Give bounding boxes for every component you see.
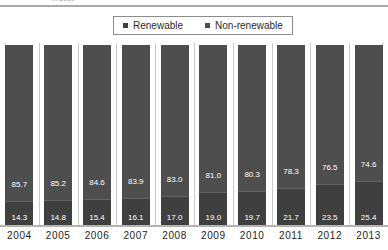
bar-segment-non-renewable[interactable]: 85.2 [44, 45, 72, 200]
bar-segment-renewable[interactable]: 23.5 [316, 184, 344, 227]
x-axis-label: 2004 [0, 229, 39, 247]
bar-value-label: 83.0 [167, 176, 183, 184]
x-axis-label: 2008 [155, 229, 194, 247]
stacked-bar[interactable]: 76.523.5 [316, 45, 344, 227]
x-axis-label: 2006 [78, 229, 117, 247]
bar-segment-non-renewable[interactable]: 80.3 [238, 45, 266, 191]
clipped-header-text: in 2013 [52, 0, 75, 1]
bar-slot: 85.214.8 [39, 45, 78, 227]
plot-area: 85.714.385.214.884.615.483.916.183.017.0… [0, 43, 388, 227]
bar-segment-non-renewable[interactable]: 81.0 [199, 45, 227, 192]
bar-value-label: 21.7 [283, 214, 299, 222]
x-axis-label: 2012 [310, 229, 349, 247]
bar-slot: 78.321.7 [272, 45, 311, 227]
x-axis-label: 2007 [116, 229, 155, 247]
bar-slot: 84.615.4 [78, 45, 117, 227]
legend-label-renewable: Renewable [133, 21, 183, 31]
header-divider-rule [0, 5, 388, 7]
bar-slot: 74.625.4 [349, 45, 388, 227]
bar-series-container: 85.714.385.214.884.615.483.916.183.017.0… [0, 45, 388, 227]
bar-value-label: 25.4 [361, 214, 377, 222]
bar-slot: 83.017.0 [155, 45, 194, 227]
bar-segment-renewable[interactable]: 14.8 [44, 200, 72, 227]
bar-value-label: 16.1 [128, 214, 144, 222]
chart-page: in 2013 Renewable Non-renewable 85.714.3… [0, 0, 388, 250]
bar-slot: 85.714.3 [0, 45, 39, 227]
x-axis-label: 2009 [194, 229, 233, 247]
bar-segment-renewable[interactable]: 21.7 [277, 188, 305, 227]
stacked-bar[interactable]: 85.214.8 [44, 45, 72, 227]
stacked-bar[interactable]: 84.615.4 [83, 45, 111, 227]
bar-value-label: 19.7 [244, 214, 260, 222]
stacked-bar[interactable]: 83.017.0 [161, 45, 189, 227]
bar-segment-renewable[interactable]: 19.7 [238, 191, 266, 227]
square-marker-icon [205, 23, 210, 28]
bar-slot: 83.916.1 [116, 45, 155, 227]
bar-value-label: 74.6 [361, 161, 377, 169]
bar-value-label: 23.5 [322, 214, 338, 222]
stacked-bar[interactable]: 83.916.1 [122, 45, 150, 227]
bar-value-label: 84.6 [89, 179, 105, 187]
x-axis-line [0, 225, 388, 227]
bar-segment-renewable[interactable]: 16.1 [122, 198, 150, 227]
bar-value-label: 83.9 [128, 178, 144, 186]
bar-value-label: 19.0 [206, 214, 222, 222]
x-axis-label: 2010 [233, 229, 272, 247]
legend-item-renewable[interactable]: Renewable [123, 21, 183, 31]
bar-segment-non-renewable[interactable]: 74.6 [355, 45, 383, 181]
bar-value-label: 15.4 [89, 214, 105, 222]
stacked-bar[interactable]: 78.321.7 [277, 45, 305, 227]
bar-segment-renewable[interactable]: 25.4 [355, 181, 383, 227]
x-axis-label: 2011 [272, 229, 311, 247]
bar-slot: 81.019.0 [194, 45, 233, 227]
bar-value-label: 14.3 [12, 214, 28, 222]
bar-value-label: 81.0 [206, 172, 222, 180]
bar-segment-renewable[interactable]: 14.3 [5, 201, 33, 227]
bar-value-label: 78.3 [283, 168, 299, 176]
legend-item-non-renewable[interactable]: Non-renewable [205, 21, 283, 31]
bar-value-label: 85.2 [50, 180, 66, 188]
stacked-bar[interactable]: 80.319.7 [238, 45, 266, 227]
bar-segment-non-renewable[interactable]: 76.5 [316, 45, 344, 184]
bar-segment-renewable[interactable]: 17.0 [161, 196, 189, 227]
bar-value-label: 17.0 [167, 214, 183, 222]
bar-value-label: 76.5 [322, 164, 338, 172]
bar-value-label: 85.7 [12, 181, 28, 189]
bar-value-label: 14.8 [50, 214, 66, 222]
square-marker-icon [123, 23, 128, 28]
bar-segment-non-renewable[interactable]: 83.9 [122, 45, 150, 198]
bar-slot: 76.523.5 [310, 45, 349, 227]
stacked-bar[interactable]: 85.714.3 [5, 45, 33, 227]
x-axis-label: 2005 [39, 229, 78, 247]
bar-segment-non-renewable[interactable]: 78.3 [277, 45, 305, 188]
bar-segment-non-renewable[interactable]: 85.7 [5, 45, 33, 201]
bar-segment-renewable[interactable]: 15.4 [83, 199, 111, 227]
bar-segment-renewable[interactable]: 19.0 [199, 192, 227, 227]
x-axis-label: 2013 [349, 229, 388, 247]
chart-legend: Renewable Non-renewable [113, 16, 293, 35]
legend-label-non-renewable: Non-renewable [215, 21, 283, 31]
bar-segment-non-renewable[interactable]: 84.6 [83, 45, 111, 199]
bar-value-label: 80.3 [244, 171, 260, 179]
x-axis-tick-labels: 2004200520062007200820092010201120122013 [0, 229, 388, 247]
stacked-bar[interactable]: 81.019.0 [199, 45, 227, 227]
bar-segment-non-renewable[interactable]: 83.0 [161, 45, 189, 196]
stacked-bar[interactable]: 74.625.4 [355, 45, 383, 227]
bar-slot: 80.319.7 [233, 45, 272, 227]
